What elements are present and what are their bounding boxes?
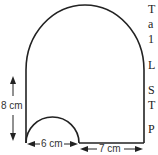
diameter-label: 6 cm bbox=[41, 138, 63, 149]
side-text-line-4: L bbox=[148, 59, 155, 71]
side-text-line-1: T bbox=[148, 3, 155, 15]
side-text-line-7: P bbox=[148, 123, 155, 135]
outer-shape-outline bbox=[26, 5, 144, 143]
side-text-line-5: S bbox=[148, 84, 155, 96]
composite-shape-diagram bbox=[0, 0, 158, 155]
side-text-line-6: T bbox=[148, 99, 155, 111]
side-text-line-2: a bbox=[148, 18, 153, 30]
height-label: 8 cm bbox=[1, 100, 23, 111]
base-label: 7 cm bbox=[99, 143, 121, 154]
side-text-line-3: 1 bbox=[148, 33, 154, 45]
